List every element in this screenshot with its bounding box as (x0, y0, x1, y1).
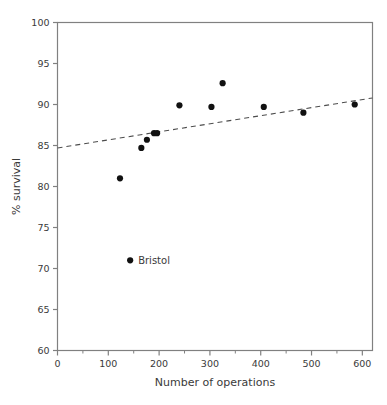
data-point[interactable] (154, 130, 160, 136)
data-point[interactable] (261, 104, 267, 110)
data-point[interactable] (208, 104, 214, 110)
x-axis-tick-label: 400 (252, 358, 270, 369)
trendline-dashed (58, 98, 373, 148)
data-point[interactable] (300, 110, 306, 116)
survival-vs-operations-chart: 60657075808590951000100200300400500600Br… (0, 0, 387, 405)
data-point[interactable] (220, 80, 226, 86)
x-axis-tick-label: 600 (353, 358, 371, 369)
x-axis-tick-label: 300 (201, 358, 219, 369)
x-axis-tick-label: 100 (99, 358, 117, 369)
data-point[interactable] (138, 145, 144, 151)
x-axis-title: Number of operations (155, 376, 276, 389)
data-point[interactable] (144, 137, 150, 143)
plot-area-frame (58, 23, 373, 351)
y-axis-tick-label: 60 (37, 345, 49, 356)
y-axis-tick-label: 85 (37, 140, 49, 151)
x-axis-tick-label: 500 (302, 358, 320, 369)
y-axis-tick-label: 80 (37, 181, 49, 192)
data-point[interactable] (117, 175, 123, 181)
y-axis-tick-label: 95 (37, 58, 49, 69)
data-point-bristol[interactable] (127, 257, 133, 263)
y-axis-tick-label: 70 (37, 263, 49, 274)
data-point[interactable] (352, 101, 358, 107)
data-point-label-bristol: Bristol (138, 255, 170, 266)
y-axis-tick-label: 90 (37, 99, 49, 110)
x-axis-tick-label: 0 (54, 358, 60, 369)
y-axis-tick-label: 100 (31, 17, 49, 28)
y-axis-tick-label: 75 (37, 222, 49, 233)
data-point[interactable] (176, 102, 182, 108)
y-axis-tick-label: 65 (37, 304, 49, 315)
y-axis-title: % survival (10, 158, 23, 215)
x-axis-tick-label: 200 (150, 358, 168, 369)
scatter-plot-figure: 60657075808590951000100200300400500600Br… (0, 0, 387, 405)
